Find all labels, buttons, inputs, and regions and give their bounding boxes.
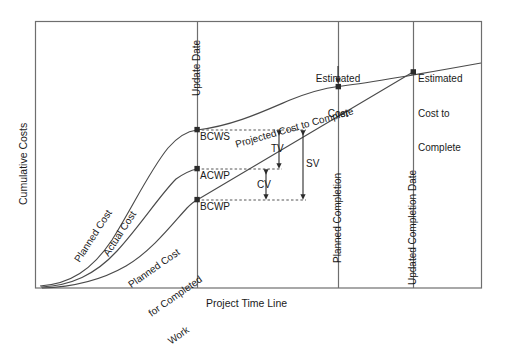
estimated-cost-line-1: Estimated — [299, 73, 377, 85]
acwp-label: ACWP — [200, 170, 230, 182]
estimated-cost-to-complete-callout: Estimated Cost to Complete — [418, 50, 462, 177]
pccw-line-3: Work — [166, 301, 224, 346]
planned-completion-label: Planned Completion — [332, 173, 344, 263]
bcwp-marker — [194, 197, 199, 202]
bcwp-label: BCWP — [200, 201, 230, 213]
tv-label: TV — [271, 143, 284, 155]
update-date-label: Update Date — [191, 40, 203, 96]
bcws-label: BCWS — [200, 131, 230, 143]
pccw-line-2: for Completed — [146, 273, 204, 318]
sv-label: SV — [306, 158, 319, 170]
estimated-cost-callout: Estimated Cost — [299, 50, 377, 142]
bcws-marker — [194, 127, 199, 132]
estimated-cost-line-2: Cost — [299, 108, 377, 120]
acwp-marker — [194, 166, 199, 171]
ectc-line-2: Cost to — [418, 108, 462, 120]
pccw-line-1: Planned Cost — [126, 245, 184, 290]
ectc-line-1: Estimated — [418, 73, 462, 85]
ectc-line-3: Complete — [418, 142, 462, 154]
y-axis-label: Cumulative Costs — [18, 123, 30, 205]
estimated-cost-to-complete-marker — [411, 69, 416, 74]
updated-completion-date-label: Updated Completion Date — [407, 170, 419, 285]
cv-label: CV — [257, 179, 271, 191]
